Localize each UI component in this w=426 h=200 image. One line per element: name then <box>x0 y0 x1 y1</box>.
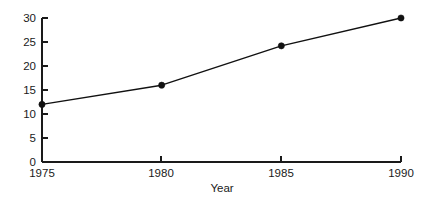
x-tick-label: 1975 <box>29 167 55 179</box>
y-tick-label: 10 <box>23 108 36 120</box>
y-axis-ticks <box>42 18 48 138</box>
y-tick-label: 30 <box>23 12 36 24</box>
data-point <box>159 82 165 88</box>
line-chart-figure: 30 25 20 15 10 5 0 1975 <box>0 0 426 200</box>
x-tick-label: 1985 <box>268 167 294 179</box>
y-tick-label: 15 <box>23 84 36 96</box>
y-tick-label: 20 <box>23 60 36 72</box>
series-markers <box>39 15 404 108</box>
y-axis-tick-labels: 30 25 20 15 10 5 0 <box>23 12 36 168</box>
x-tick-label: 1980 <box>148 167 174 179</box>
y-tick-label: 25 <box>23 36 36 48</box>
x-axis-title: Year <box>210 182 233 194</box>
x-axis-tick-labels: 1975 1980 1985 1990 <box>29 167 414 179</box>
x-tick-label: 1990 <box>388 167 414 179</box>
chart-canvas: 30 25 20 15 10 5 0 1975 <box>0 0 426 200</box>
data-point <box>398 15 404 21</box>
y-tick-label: 5 <box>30 132 36 144</box>
x-axis-ticks <box>161 156 401 162</box>
data-point <box>39 101 45 107</box>
data-point <box>278 43 284 49</box>
series-line <box>42 18 401 104</box>
